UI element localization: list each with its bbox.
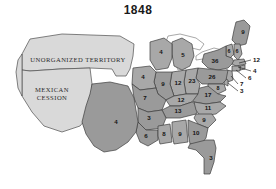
- callout-line-connecticut: [236, 70, 246, 78]
- state-value-texas: 4: [114, 118, 118, 125]
- state-rhode-island: [240, 65, 245, 70]
- state-value-georgia: 10: [193, 129, 200, 136]
- historical-map-figure: 1848: [0, 0, 276, 189]
- state-value-wisconsin: 4: [159, 48, 163, 55]
- state-value-vermont: 6: [228, 48, 231, 54]
- callout-label-delaware: 3: [240, 87, 244, 94]
- state-value-iowa: 4: [141, 73, 145, 80]
- state-value-maine: 9: [241, 28, 245, 35]
- state-value-ohio: 23: [189, 77, 196, 84]
- state-value-florida: 3: [209, 154, 213, 161]
- callout-label-massachusetts: 12: [253, 56, 260, 63]
- state-value-south-carolina: 9: [202, 116, 206, 123]
- state-value-michigan: 5: [181, 51, 185, 58]
- state-value-virginia: 17: [205, 91, 212, 98]
- us-map-svg: UNORGANIZED TERRITORY MEXICAN CESSION 9 …: [0, 14, 276, 189]
- callout-label-connecticut: 6: [248, 74, 252, 81]
- callout-label-new-jersey: 7: [240, 80, 244, 87]
- state-value-kentucky: 12: [178, 96, 185, 103]
- state-value-maryland: 8: [217, 85, 220, 91]
- territory-label-unorganized: UNORGANIZED TERRITORY: [30, 56, 125, 63]
- state-value-illinois: 9: [161, 80, 165, 87]
- state-value-louisiana: 6: [144, 132, 148, 139]
- state-value-north-carolina: 11: [205, 104, 212, 111]
- state-value-new-york: 36: [212, 57, 219, 64]
- state-value-arkansas: 3: [147, 114, 151, 121]
- state-value-pennsylvania: 26: [209, 73, 216, 80]
- callout-label-rhode-island: 4: [253, 67, 257, 74]
- state-value-new-hampshire: 6: [236, 48, 239, 54]
- state-value-indiana: 12: [175, 79, 182, 86]
- territory-label-mexican-cession-line1: MEXICAN: [35, 86, 69, 93]
- state-value-tennessee: 13: [175, 107, 182, 114]
- state-value-alabama: 9: [178, 130, 182, 137]
- state-value-mississippi: 8: [162, 130, 166, 137]
- state-value-missouri: 7: [143, 94, 147, 101]
- territory-oregon-strip: [16, 54, 22, 96]
- callout-line-delaware: [228, 83, 238, 91]
- territory-label-mexican-cession-line2: CESSION: [37, 94, 68, 101]
- state-texas: [82, 82, 138, 152]
